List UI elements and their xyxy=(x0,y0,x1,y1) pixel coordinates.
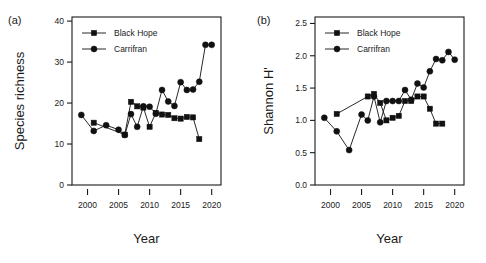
panel-a-point-carrifran xyxy=(196,79,202,85)
panel-b-point-carrifran xyxy=(321,115,327,121)
panel-a-xtick-label: 2010 xyxy=(140,200,159,210)
panel-a-point-carrifran xyxy=(171,103,177,109)
panel-a-plot-frame xyxy=(72,17,221,185)
panel-a-point-black-hope xyxy=(91,120,96,125)
chart-panel-b: (b)0.00.51.01.52.02.52000200520102015202… xyxy=(243,0,486,250)
panel-b-point-black-hope xyxy=(427,106,432,111)
panel-a-point-carrifran xyxy=(190,87,196,93)
panel-a-ytick-label: 10 xyxy=(55,139,65,149)
panel-a-point-black-hope xyxy=(190,115,195,120)
panel-a-point-black-hope xyxy=(147,124,152,129)
panel-b-point-carrifran xyxy=(427,68,433,74)
panel-b-point-carrifran xyxy=(365,117,371,123)
panel-b-legend-marker-square xyxy=(334,30,339,35)
panel-b-point-carrifran xyxy=(371,93,377,99)
panel-b-point-black-hope xyxy=(334,111,339,116)
panel-a-point-black-hope xyxy=(159,112,164,117)
panel-b-label: (b) xyxy=(257,14,270,26)
panel-a-point-carrifran xyxy=(159,87,165,93)
panel-b-ytick-label: 2.5 xyxy=(295,18,307,28)
panel-a-svg: (a)01020304020002005201020152020YearSpec… xyxy=(0,0,243,250)
panel-a-point-black-hope xyxy=(172,116,177,121)
panel-b-point-black-hope xyxy=(440,121,445,126)
panel-a-xaxis-title: Year xyxy=(133,231,160,246)
panel-b-legend-label: Carrifran xyxy=(357,44,390,54)
panel-a-point-carrifran xyxy=(209,42,215,48)
panel-a-legend-label: Black Hope xyxy=(114,28,158,38)
panel-a-point-carrifran xyxy=(91,128,97,134)
panel-a-point-carrifran xyxy=(153,111,159,117)
panel-b-legend-marker-circle xyxy=(334,46,340,52)
panel-b-point-carrifran xyxy=(334,128,340,134)
panel-a-point-black-hope xyxy=(166,112,171,117)
panel-b-point-black-hope xyxy=(378,100,383,105)
panel-b-point-carrifran xyxy=(421,84,427,90)
panel-b-point-black-hope xyxy=(415,94,420,99)
panel-b-point-carrifran xyxy=(433,56,439,62)
panel-a-legend-marker-circle xyxy=(91,46,97,52)
panel-a-point-carrifran xyxy=(122,132,128,138)
chart-panel-a: (a)01020304020002005201020152020YearSpec… xyxy=(0,0,243,250)
panel-b-ytick-label: 2.0 xyxy=(295,51,307,61)
panel-b-yaxis-title: Shannon H' xyxy=(261,67,276,135)
panel-a-ytick-label: 30 xyxy=(55,57,65,67)
panel-b-point-black-hope xyxy=(433,121,438,126)
panel-a-xtick-label: 2000 xyxy=(78,200,97,210)
panel-a-point-carrifran xyxy=(134,124,140,130)
panel-a-label: (a) xyxy=(8,14,21,26)
panel-a-point-carrifran xyxy=(78,112,84,118)
panel-b-point-carrifran xyxy=(452,57,458,63)
panel-b-point-carrifran xyxy=(414,81,420,87)
panel-b-xtick-label: 2010 xyxy=(383,200,402,210)
panel-b-ytick-label: 1.5 xyxy=(295,83,307,93)
panel-b-point-black-hope xyxy=(365,94,370,99)
panel-a-point-carrifran xyxy=(147,104,153,110)
panel-b-point-carrifran xyxy=(377,119,383,125)
panel-b-legend-label: Black Hope xyxy=(357,28,401,38)
panel-a-point-carrifran xyxy=(178,79,184,85)
panel-b-xaxis-title: Year xyxy=(376,231,403,246)
panel-b-point-carrifran xyxy=(346,147,352,153)
panel-b-xtick-label: 2015 xyxy=(414,200,433,210)
panel-a-ytick-label: 0 xyxy=(59,180,64,190)
panel-a-point-black-hope xyxy=(128,99,133,104)
panel-b-ytick-label: 1.0 xyxy=(295,115,307,125)
panel-a-point-black-hope xyxy=(135,104,140,109)
panel-a-point-carrifran xyxy=(116,127,122,133)
panel-b-point-black-hope xyxy=(390,115,395,120)
panel-a-xtick-label: 2005 xyxy=(109,200,128,210)
panel-a-ytick-label: 20 xyxy=(55,98,65,108)
panel-a-point-black-hope xyxy=(178,116,183,121)
panel-b-point-black-hope xyxy=(384,118,389,123)
panel-b-point-carrifran xyxy=(383,98,389,104)
panel-b-point-carrifran xyxy=(390,98,396,104)
panel-b-point-black-hope xyxy=(402,98,407,103)
panel-b-ytick-label: 0.0 xyxy=(295,180,307,190)
panel-a-legend-label: Carrifran xyxy=(114,44,147,54)
figure-container: (a)01020304020002005201020152020YearSpec… xyxy=(0,0,486,263)
panel-a-ytick-label: 40 xyxy=(55,16,65,26)
panel-a-point-black-hope xyxy=(197,137,202,142)
panel-b-point-carrifran xyxy=(402,87,408,93)
panel-b-svg: (b)0.00.51.01.52.02.52000200520102015202… xyxy=(243,0,486,250)
panel-b-xtick-label: 2005 xyxy=(352,200,371,210)
panel-b-xtick-label: 2000 xyxy=(321,200,340,210)
panel-b-ytick-label: 0.5 xyxy=(295,148,307,158)
panel-a-legend-marker-square xyxy=(91,30,96,35)
panel-b-point-carrifran xyxy=(396,98,402,104)
panel-a-point-carrifran xyxy=(103,122,109,128)
panel-b-point-black-hope xyxy=(421,94,426,99)
panel-a-yaxis-title: Species richness xyxy=(12,51,27,150)
panel-a-point-carrifran xyxy=(140,103,146,109)
panel-a-xtick-label: 2020 xyxy=(202,200,221,210)
panel-b-point-carrifran xyxy=(408,97,414,103)
panel-b-point-black-hope xyxy=(396,113,401,118)
panel-a-point-carrifran xyxy=(128,111,134,117)
panel-a-xtick-label: 2015 xyxy=(171,200,190,210)
panel-a-point-black-hope xyxy=(184,114,189,119)
panel-a-point-carrifran xyxy=(165,98,171,104)
panel-b-point-carrifran xyxy=(445,49,451,55)
panel-a-point-carrifran xyxy=(202,42,208,48)
panel-b-xtick-label: 2020 xyxy=(445,200,464,210)
panel-b-point-carrifran xyxy=(439,57,445,63)
